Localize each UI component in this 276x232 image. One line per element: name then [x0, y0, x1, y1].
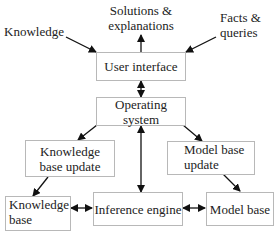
node-mb-update-line1: Model base — [184, 142, 244, 157]
node-kb-line2: base — [9, 212, 32, 227]
label-knowledge: Knowledge — [4, 24, 64, 39]
node-kb-update-line1: Knowledge — [40, 144, 100, 159]
arrow-mb-update-to-mb — [223, 174, 240, 191]
node-kb-line1: Knowledge — [9, 197, 69, 212]
node-operating-system: Operating system — [96, 97, 186, 126]
arrow-os-to-mb-update — [183, 125, 202, 141]
node-inference-engine: Inference engine — [93, 192, 183, 226]
node-user-interface: User interface — [96, 52, 186, 81]
system-diagram: Knowledge Solutions & explanations Facts… — [0, 0, 276, 232]
node-mb-update-line2: update — [184, 157, 219, 172]
arrow-facts-to-ui — [186, 37, 216, 52]
node-user-interface-label: User interface — [104, 59, 177, 74]
node-knowledge-base-update: Knowledge base update — [25, 140, 115, 177]
label-facts-line2: queries — [220, 25, 261, 40]
arrow-knowledge-to-ui — [66, 37, 96, 52]
node-inference-engine-label: Inference engine — [95, 202, 182, 217]
label-solutions-line2: explanations — [96, 18, 186, 33]
label-facts: Facts & queries — [220, 10, 261, 40]
node-model-base: Model base — [206, 192, 274, 226]
label-solutions-line1: Solutions & — [96, 3, 186, 18]
node-knowledge-base: Knowledge base — [5, 196, 71, 231]
node-operating-system-label: Operating system — [97, 97, 185, 127]
arrow-kb-update-to-kb — [33, 177, 48, 196]
node-kb-update-line2: base update — [39, 159, 100, 174]
node-model-base-label: Model base — [210, 202, 270, 217]
node-model-base-update: Model base update — [167, 141, 255, 175]
arrow-os-to-kb-update — [78, 125, 97, 140]
label-facts-line1: Facts & — [220, 10, 261, 25]
label-solutions: Solutions & explanations — [96, 3, 186, 33]
